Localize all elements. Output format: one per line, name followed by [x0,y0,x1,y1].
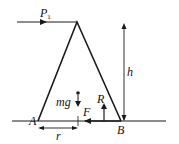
free-body-diagram: P1 h mg R F [0,0,179,144]
label-a: A [28,114,37,128]
label-h: h [127,65,133,79]
label-mg: mg [56,95,71,109]
weight-arrow [75,91,81,107]
label-r-distance: r [56,129,61,143]
triangle-frame [38,22,121,121]
diagram-canvas: P1 h mg R F [0,0,179,144]
label-r-force: R [96,92,105,106]
height-dimension-arrow [122,23,127,121]
label-p1: P1 [39,6,51,21]
label-b: B [117,123,125,137]
label-f: F [82,105,91,119]
